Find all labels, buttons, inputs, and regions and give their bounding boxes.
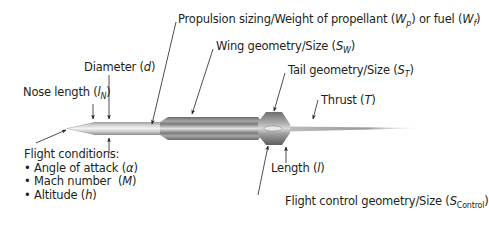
flight-conditions-title: Flight conditions:	[24, 148, 138, 162]
flight-conditions-block: Flight conditions: • Angle of attack (α)…	[24, 148, 138, 202]
forward-body	[95, 122, 165, 135]
wing-label: Wing geometry/Size (SW)	[216, 40, 355, 53]
nose-cone	[67, 122, 96, 135]
flight-condition-item: • Angle of attack (α)	[24, 162, 138, 176]
flight-condition-item: • Mach number (M)	[24, 175, 138, 189]
flight-control-label: Flight control geometry/Size (SControl)	[285, 195, 489, 208]
wing-section	[160, 117, 262, 140]
flight-condition-item: • Altitude (h)	[24, 189, 138, 203]
thrust-label: Thrust (T)	[321, 94, 376, 107]
tail-label: Tail geometry/Size (ST)	[288, 64, 414, 77]
diameter-label: Diameter (d)	[84, 61, 155, 74]
propulsion-label: Propulsion sizing/Weight of propellant (…	[178, 13, 480, 26]
nose-length-label: Nose length (lN)	[23, 86, 111, 99]
thrust-plume	[288, 127, 432, 132]
length-label: Length (l)	[271, 162, 325, 175]
